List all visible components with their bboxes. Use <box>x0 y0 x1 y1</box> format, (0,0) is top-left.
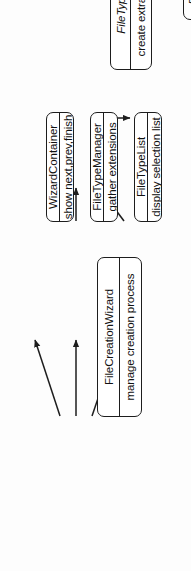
class-title-cell: WizardContainer <box>47 113 60 221</box>
class-title-cell: FileType <box>111 0 131 69</box>
class-operations-cell: manage creation process <box>120 258 141 416</box>
class-operations-cell: gather extensions <box>104 113 118 221</box>
class-operations-cell: display selection list <box>148 113 162 221</box>
edge-filecreationwizard-to-wizardcontainer <box>35 340 60 416</box>
class-box-filetype[interactable]: FileType create extra page <box>110 0 152 70</box>
class-title-cell: FileTypeList <box>135 113 148 221</box>
class-title: WizardContainer <box>47 125 59 209</box>
diagram-edges <box>0 0 191 571</box>
class-operation: display selection list <box>150 117 162 216</box>
class-operation: manage creation process <box>124 274 137 401</box>
class-title-cell: ExtraInformationPage <box>184 0 191 19</box>
class-title: ExtraInformationPage <box>187 0 192 5</box>
class-operations-cell: create extra page <box>131 0 151 69</box>
class-box-wizardcontainer[interactable]: WizardContainer show next,prev,finish <box>46 112 74 222</box>
class-box-extrainformationpage[interactable]: ExtraInformationPage gather user input c… <box>183 0 191 20</box>
class-operation: show next,prev,finish <box>62 115 74 219</box>
class-title: FileType <box>115 0 127 34</box>
class-box-filetypelist[interactable]: FileTypeList display selection list <box>134 112 162 222</box>
class-operations-cell: show next,prev,finish <box>60 113 74 221</box>
class-title-cell: FileTypeManager <box>91 113 104 221</box>
class-operation: create extra page <box>135 0 148 56</box>
class-operation: gather extensions <box>106 122 118 211</box>
class-box-filecreationwizard[interactable]: FileCreationWizard manage creation proce… <box>97 257 142 417</box>
class-title-cell: FileCreationWizard <box>98 258 120 416</box>
class-box-filetypemanager[interactable]: FileTypeManager gather extensions <box>90 112 118 222</box>
class-title: FileCreationWizard <box>103 289 115 385</box>
uml-class-diagram: ExtraInformationPage gather user input c… <box>0 0 191 571</box>
class-title: FileTypeList <box>135 137 147 197</box>
class-title: FileTypeManager <box>91 123 103 210</box>
